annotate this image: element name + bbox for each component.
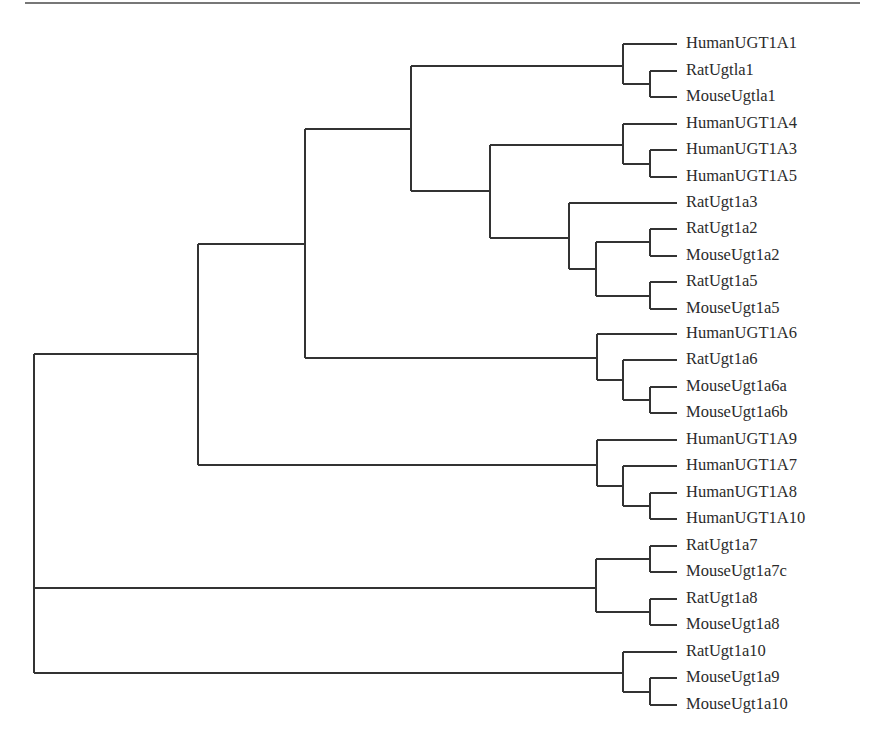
leaf-label: MouseUgtla1 bbox=[686, 88, 776, 105]
leaf-label: RatUgt1a5 bbox=[686, 273, 758, 290]
leaf-label: MouseUgt1a6b bbox=[686, 404, 788, 421]
leaf-label: MouseUgt1a10 bbox=[686, 696, 788, 713]
leaf-label: HumanUGT1A6 bbox=[686, 325, 797, 342]
leaf-label: RatUgt1a8 bbox=[686, 590, 758, 607]
leaf-label: RatUgtla1 bbox=[686, 62, 754, 79]
leaf-label: HumanUGT1A1 bbox=[686, 35, 797, 52]
leaf-label: MouseUgt1a6a bbox=[686, 378, 787, 395]
tree-branches bbox=[34, 44, 677, 705]
leaf-label: HumanUGT1A3 bbox=[686, 141, 797, 158]
leaf-label: HumanUGT1A7 bbox=[686, 457, 797, 474]
leaf-label: MouseUgt1a8 bbox=[686, 616, 780, 633]
leaf-label: MouseUgt1a5 bbox=[686, 300, 780, 317]
leaf-label: RatUgt1a7 bbox=[686, 537, 758, 554]
leaf-label: HumanUGT1A10 bbox=[686, 510, 805, 527]
leaf-label: RatUgt1a10 bbox=[686, 643, 766, 660]
leaf-label: HumanUGT1A8 bbox=[686, 484, 797, 501]
leaf-label: MouseUgt1a7c bbox=[686, 563, 787, 580]
leaf-label: HumanUGT1A9 bbox=[686, 431, 797, 448]
leaf-label: RatUgt1a3 bbox=[686, 194, 758, 211]
leaf-label: RatUgt1a6 bbox=[686, 351, 758, 368]
leaf-label: RatUgt1a2 bbox=[686, 220, 758, 237]
leaf-label: HumanUGT1A4 bbox=[686, 115, 797, 132]
leaf-label: MouseUgt1a2 bbox=[686, 247, 780, 263]
leaf-label: MouseUgt1a9 bbox=[686, 669, 780, 686]
leaf-label: HumanUGT1A5 bbox=[686, 168, 797, 185]
